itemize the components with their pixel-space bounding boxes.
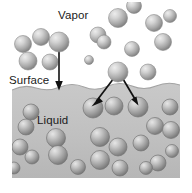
liquid-molecule — [105, 97, 123, 115]
liquid-label: Liquid — [37, 114, 68, 126]
diagram-canvas — [0, 0, 192, 193]
vapor-molecule — [146, 15, 163, 32]
liquid-molecule — [49, 146, 68, 165]
liquid-molecule — [162, 99, 178, 115]
liquid-molecule — [71, 160, 86, 175]
vapor-molecule — [97, 35, 111, 49]
vapor-molecule — [140, 64, 156, 80]
liquid-molecule — [147, 118, 164, 135]
condensing-molecule — [108, 62, 128, 82]
liquid-molecule — [8, 162, 20, 174]
liquid-molecule — [109, 138, 127, 156]
vapor-molecule — [15, 36, 32, 53]
surface-label: Surface — [9, 74, 49, 86]
evaporating-molecule — [49, 32, 69, 52]
liquid-molecule — [12, 139, 28, 155]
vapor-molecule — [42, 54, 58, 70]
liquid-molecule — [133, 135, 149, 151]
liquid-molecule — [166, 145, 179, 158]
liquid-molecule — [18, 119, 34, 135]
vapor-molecule — [33, 29, 50, 46]
liquid-molecule — [91, 151, 110, 170]
liquid-molecule — [47, 129, 66, 148]
vapor-molecule — [155, 34, 172, 51]
liquid-molecule — [140, 162, 153, 175]
vapor-molecule — [109, 9, 128, 28]
vapor-molecule — [127, 0, 142, 14]
vapor-molecule — [164, 10, 177, 23]
vapor-label: Vapor — [58, 9, 88, 21]
vapor-liquid-diagram: Vapor Surface Liquid — [0, 0, 192, 193]
liquid-molecule — [128, 97, 148, 117]
vapor-molecule — [85, 56, 94, 65]
liquid-molecule — [25, 150, 39, 164]
vapor-molecule — [19, 52, 37, 70]
liquid-molecule — [112, 160, 128, 176]
vapor-molecule — [125, 42, 140, 57]
liquid-molecule — [91, 128, 110, 147]
liquid-molecule — [163, 122, 180, 139]
